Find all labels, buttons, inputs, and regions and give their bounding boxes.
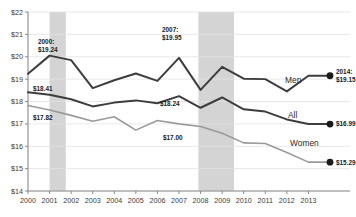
- y-tick-label-18: $18: [11, 97, 23, 106]
- y-tick-label-21: $21: [11, 30, 23, 39]
- endpoint-marker-women-end: [327, 159, 334, 166]
- annotation-women-2000: $17.82: [33, 114, 53, 122]
- x-tick-label-2011: 2011: [258, 196, 273, 205]
- y-tick-label-16: $16: [11, 142, 23, 151]
- endpoint-label-all-end: $16.99: [336, 120, 356, 128]
- x-tick-label-2004: 2004: [106, 196, 122, 205]
- x-tick-label-2003: 2003: [85, 196, 101, 205]
- series-labels: MenAllWomen: [285, 75, 319, 148]
- annotation-all-2000: $18.41: [33, 85, 53, 93]
- y-tick-label-22: $22: [11, 8, 23, 17]
- endpoint-markers: 2014:$19.15$16.99$15.29: [327, 68, 356, 166]
- x-tick-label-2001: 2001: [42, 196, 58, 205]
- series-label-women: Women: [290, 138, 319, 148]
- x-tick-label-2010: 2010: [236, 196, 252, 205]
- series-line-men: [28, 56, 330, 92]
- x-axis: 2000200120022003200420052006200720082009…: [20, 191, 350, 205]
- x-tick-label-2007: 2007: [171, 196, 187, 205]
- line-chart: $22$21$20$19$18$17$16$15$14 200020012002…: [0, 0, 356, 217]
- annotation-women-2007: $17.00: [163, 134, 183, 142]
- x-tick-label-2013: 2013: [300, 196, 316, 205]
- endpoint-label-women-end: $15.29: [336, 159, 356, 167]
- y-tick-label-19: $19: [11, 75, 23, 84]
- y-tick-label-15: $15: [11, 164, 23, 173]
- y-axis: $22$21$20$19$18$17$16$15$14: [11, 8, 28, 196]
- x-tick-label-2008: 2008: [193, 196, 209, 205]
- y-tick-label-17: $17: [11, 119, 23, 128]
- endpoint-marker-all-end: [327, 121, 334, 128]
- annotation-men-2000-year: 2000:: [38, 38, 54, 45]
- endpoint-marker-men-end: [327, 72, 334, 79]
- x-tick-label-2000: 2000: [20, 196, 36, 205]
- x-tick-label-2006: 2006: [149, 196, 165, 205]
- chart-container: $22$21$20$19$18$17$16$15$14 200020012002…: [0, 0, 356, 217]
- x-tick-label-2009: 2009: [214, 196, 230, 205]
- y-tick-label-20: $20: [11, 52, 23, 61]
- endpoint-label-men-end-year: 2014:: [336, 68, 352, 75]
- x-tick-label-2002: 2002: [63, 196, 79, 205]
- x-tick-label-2005: 2005: [128, 196, 144, 205]
- annotation-men-2007-year: 2007:: [162, 26, 178, 33]
- series-line-all: [28, 92, 330, 124]
- annotation-all-2007: $18.24: [160, 100, 180, 108]
- endpoint-label-men-end-value: $19.15: [336, 76, 356, 84]
- series-label-all: All: [288, 110, 297, 120]
- series-label-men: Men: [285, 75, 302, 85]
- y-tick-label-14: $14: [11, 187, 23, 196]
- annotation-men-2007-value: $19.95: [162, 34, 182, 42]
- x-tick-label-2012: 2012: [279, 196, 295, 205]
- annotation-men-2000-value: $19.24: [38, 46, 58, 54]
